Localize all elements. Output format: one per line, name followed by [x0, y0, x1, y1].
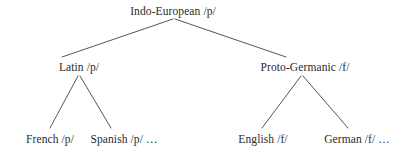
node-proto-germanic: Proto-Germanic /f/	[261, 61, 350, 74]
node-spanish: Spanish /p/ …	[90, 133, 157, 146]
tree-diagram: Indo-European /p/ Latin /p/ Proto-German…	[0, 0, 415, 156]
node-german: German /f/ …	[324, 133, 390, 146]
node-french: French /p/	[26, 133, 74, 146]
node-latin: Latin /p/	[59, 61, 99, 74]
edge-latin-spanish	[80, 76, 111, 128]
node-indo-european: Indo-European /p/	[130, 5, 216, 18]
edge-root-latin	[62, 19, 173, 57]
edge-pgmc-english	[262, 76, 301, 128]
node-english: English /f/	[238, 133, 287, 146]
edge-pgmc-german	[303, 76, 348, 128]
edge-root-pgmc	[175, 19, 286, 57]
edge-latin-french	[50, 76, 78, 128]
